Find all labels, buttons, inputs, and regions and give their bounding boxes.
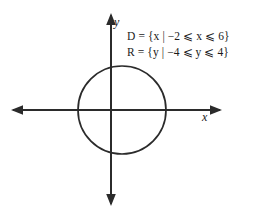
domain-set-notation: D = {x | −2 ⩽ x ⩽ 6} bbox=[127, 28, 230, 44]
y-axis-label: y bbox=[114, 15, 119, 30]
x-axis-label: x bbox=[202, 110, 207, 125]
x-axis-right-arrowhead bbox=[210, 105, 222, 115]
range-set-notation: R = {y | −4 ⩽ y ⩽ 4} bbox=[127, 44, 229, 60]
y-axis-down-arrowhead bbox=[106, 194, 116, 206]
x-axis-left-arrowhead bbox=[11, 105, 23, 115]
